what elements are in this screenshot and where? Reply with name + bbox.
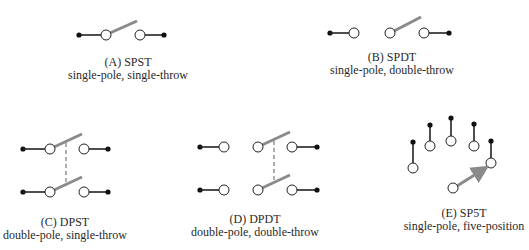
sp5t-switch-symbol xyxy=(408,115,496,193)
caption-subtitle: single-pole, double-throw xyxy=(322,64,462,77)
caption-subtitle: single-pole, five-position xyxy=(394,220,529,233)
caption-subtitle: double-pole, double-throw xyxy=(180,226,330,239)
caption-subtitle: single-pole, single-throw xyxy=(58,69,198,82)
spdt-switch-symbol xyxy=(327,17,451,38)
dpst-switch-symbol xyxy=(20,134,110,197)
caption-spdt: (B) SPDT single-pole, double-throw xyxy=(322,51,462,77)
caption-dpdt: (D) DPDT double-pole, double-throw xyxy=(180,213,330,239)
caption-subtitle: double-pole, single-throw xyxy=(0,229,135,242)
spst-switch-symbol xyxy=(76,21,166,40)
caption-sp5t: (E) SP5T single-pole, five-position xyxy=(394,207,529,233)
caption-dpst: (C) DPST double-pole, single-throw xyxy=(0,216,135,242)
dpdt-switch-symbol xyxy=(197,132,319,195)
caption-spst: (A) SPST single-pole, single-throw xyxy=(58,56,198,82)
